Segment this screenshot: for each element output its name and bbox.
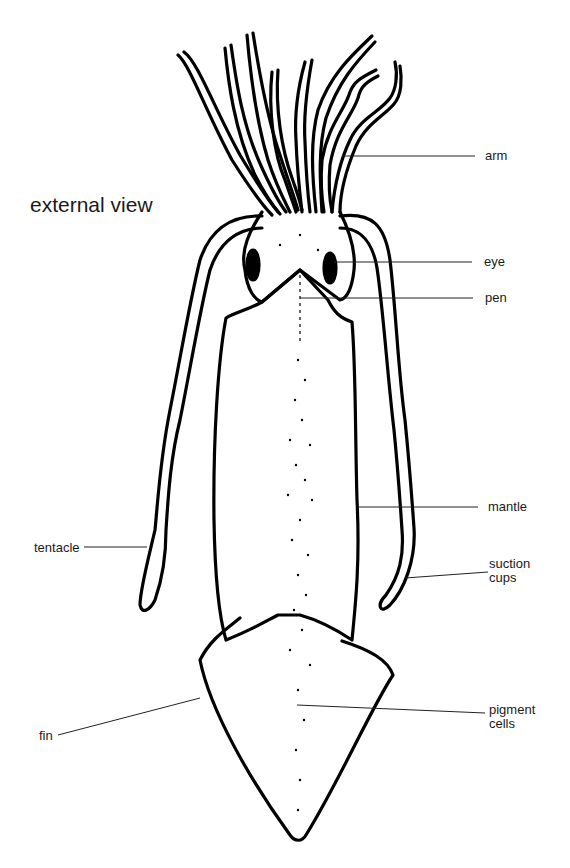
arms xyxy=(178,33,401,215)
label-fin: fin xyxy=(39,729,53,743)
tentacle-left xyxy=(140,216,262,610)
label-pen: pen xyxy=(485,291,507,305)
suction-leader xyxy=(405,572,488,578)
subtitle-external-view: external view xyxy=(30,193,153,217)
label-tentacle: tentacle xyxy=(34,541,80,555)
pigment-leader xyxy=(297,705,485,713)
label-suction-cups: suction cups xyxy=(489,557,530,585)
label-mantle: mantle xyxy=(488,500,527,514)
head-outline xyxy=(244,212,355,302)
pigment-dots xyxy=(279,234,319,811)
fin-leader xyxy=(58,698,200,735)
label-pigment-cells: pigment cells xyxy=(489,703,535,731)
tentacle-right xyxy=(340,215,414,609)
squid-illustration xyxy=(0,0,570,868)
fin-outline xyxy=(200,618,393,840)
eye-right-shape xyxy=(324,253,336,283)
mantle-outline xyxy=(214,270,358,640)
eye-left-shape xyxy=(247,250,259,280)
label-arm: arm xyxy=(485,149,507,163)
label-eye: eye xyxy=(484,255,505,269)
